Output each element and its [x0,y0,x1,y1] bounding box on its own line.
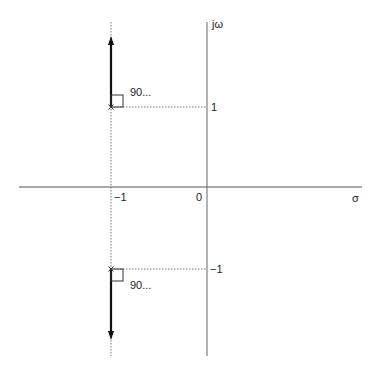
angle-label-lower: 90... [130,279,151,291]
imaginary-axis-label: jω [212,18,223,30]
origin-label: 0 [196,191,202,203]
tick-imag-minus-one: −1 [210,263,223,275]
s-plane-diagram [0,0,380,371]
arrowhead-up-icon [108,36,114,45]
tick-real-minus-one: −1 [114,191,127,203]
tick-imag-plus-one: 1 [211,101,217,113]
real-axis-label: σ [352,192,359,204]
angle-label-upper: 90... [130,86,151,98]
arrowhead-down-icon [108,331,114,340]
